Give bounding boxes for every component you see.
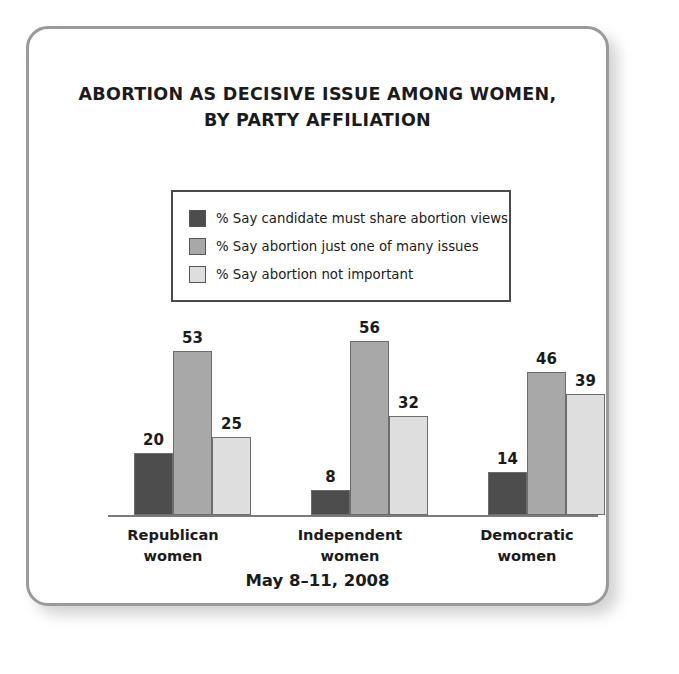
bar-0-1	[311, 490, 350, 515]
legend-swatch-icon-1	[189, 238, 206, 255]
bar-value-0-2: 14	[488, 450, 527, 468]
bar-wrap-1-2: 46	[527, 329, 566, 515]
bar-value-2-1: 32	[389, 394, 428, 412]
chart-title-line-1: ABORTION AS DECISIVE ISSUE AMONG WOMEN,	[29, 81, 606, 107]
bar-wrap-2-0: 25	[212, 329, 251, 515]
category-label-1: Independent women	[270, 525, 430, 566]
bar-value-2-2: 39	[566, 372, 605, 390]
legend-label-1: % Say abortion just one of many issues	[216, 239, 479, 254]
bar-wrap-1-0: 53	[173, 329, 212, 515]
chart-title-line-2: BY PARTY AFFILIATION	[29, 107, 606, 133]
bar-value-1-1: 56	[350, 319, 389, 337]
bar-value-1-2: 46	[527, 350, 566, 368]
legend-swatch-icon-0	[189, 210, 206, 227]
category-label-2: Democratic women	[447, 525, 607, 566]
plot-area: 20 53 25 8 56 32	[108, 329, 598, 517]
category-label-1-line-1: Independent	[270, 525, 430, 546]
category-label-0: Republican women	[93, 525, 253, 566]
bar-wrap-0-0: 20	[134, 329, 173, 515]
category-label-0-line-2: women	[93, 546, 253, 567]
bar-0-2	[488, 472, 527, 515]
legend-label-2: % Say abortion not important	[216, 267, 413, 282]
legend-label-0: % Say candidate must share abortion view…	[216, 211, 508, 226]
bar-2-2	[566, 394, 605, 515]
category-label-0-line-1: Republican	[93, 525, 253, 546]
bar-wrap-2-1: 32	[389, 329, 428, 515]
bar-group-2: 14 46 39	[488, 329, 605, 515]
legend-item-2: % Say abortion not important	[189, 260, 495, 288]
bar-1-2	[527, 372, 566, 515]
footer-date: May 8–11, 2008	[29, 571, 606, 590]
category-label-2-line-2: women	[447, 546, 607, 567]
legend-item-0: % Say candidate must share abortion view…	[189, 204, 495, 232]
bar-0-0	[134, 453, 173, 515]
axis-baseline	[108, 515, 598, 517]
chart-card: ABORTION AS DECISIVE ISSUE AMONG WOMEN, …	[26, 26, 609, 606]
bar-value-0-1: 8	[311, 468, 350, 486]
legend-swatch-icon-2	[189, 266, 206, 283]
chart-title: ABORTION AS DECISIVE ISSUE AMONG WOMEN, …	[29, 81, 606, 134]
bar-2-1	[389, 416, 428, 515]
bar-wrap-0-1: 8	[311, 329, 350, 515]
bar-group-0: 20 53 25	[134, 329, 251, 515]
category-label-1-line-2: women	[270, 546, 430, 567]
bar-2-0	[212, 437, 251, 515]
bar-wrap-0-2: 14	[488, 329, 527, 515]
bar-wrap-1-1: 56	[350, 329, 389, 515]
bar-wrap-2-2: 39	[566, 329, 605, 515]
bar-1-0	[173, 351, 212, 515]
legend-item-1: % Say abortion just one of many issues	[189, 232, 495, 260]
bar-value-0-0: 20	[134, 431, 173, 449]
category-label-2-line-1: Democratic	[447, 525, 607, 546]
bar-value-2-0: 25	[212, 415, 251, 433]
bar-group-1: 8 56 32	[311, 329, 428, 515]
bar-value-1-0: 53	[173, 329, 212, 347]
chart-legend: % Say candidate must share abortion view…	[171, 190, 511, 302]
bar-1-1	[350, 341, 389, 515]
